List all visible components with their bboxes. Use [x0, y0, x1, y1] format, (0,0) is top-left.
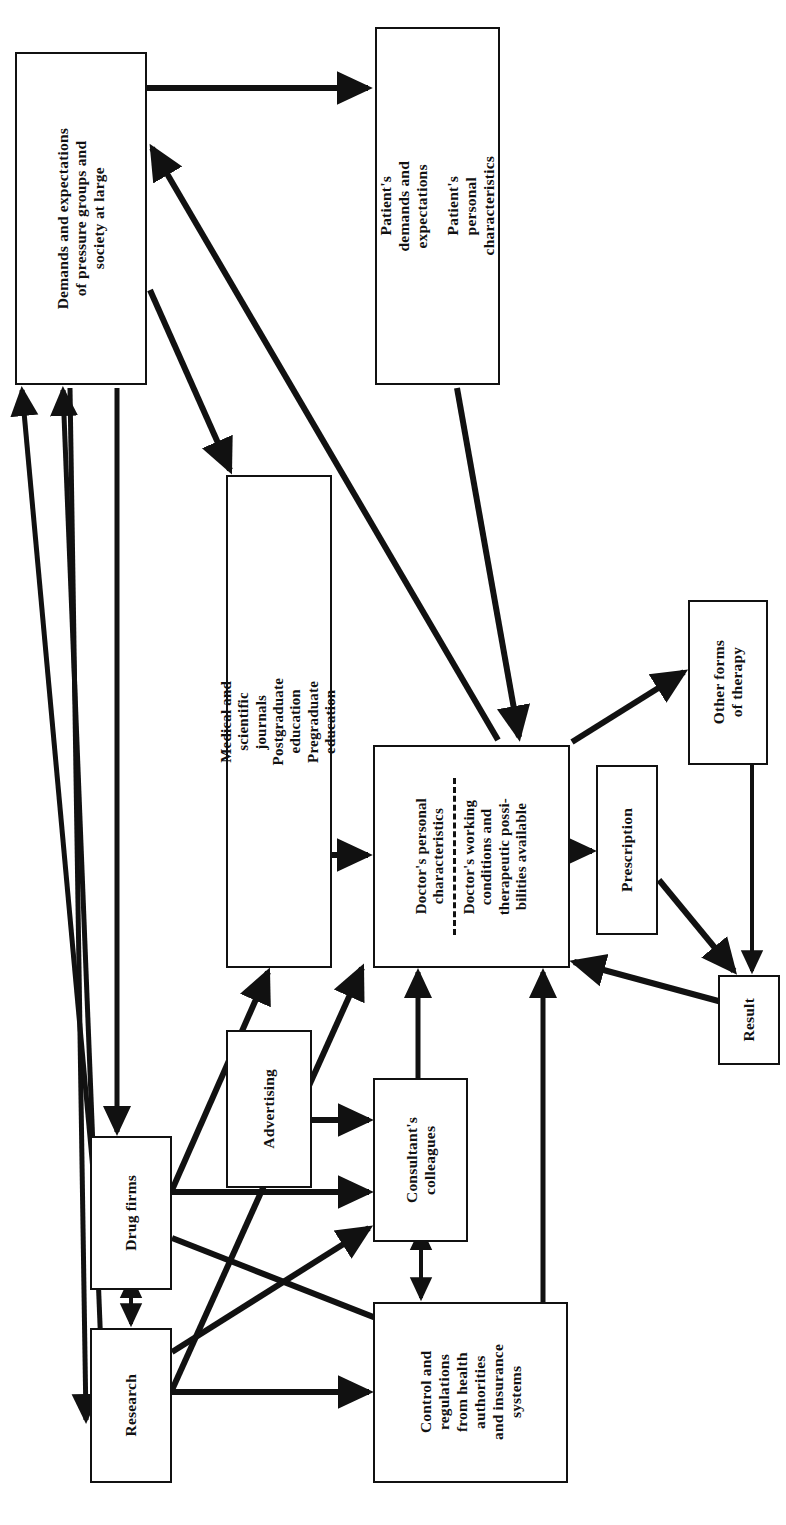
- medical-journals-label: Medical and scientific journals: [218, 681, 270, 763]
- edge-demands-to-education: [150, 290, 230, 470]
- consultants-colleagues-box[interactable]: Consultant's colleagues: [373, 1078, 468, 1242]
- doctor-box-dashed-divider: [453, 778, 456, 936]
- advertising-label: Advertising: [260, 1069, 278, 1149]
- edge-doctor-to-other-therapy: [572, 672, 684, 742]
- research-box[interactable]: Research: [90, 1328, 172, 1483]
- other-forms-of-therapy-box[interactable]: Other forms of therapy: [688, 600, 768, 765]
- doctor-personal-characteristics-label: Doctor's personal characteristics: [413, 798, 448, 914]
- patient-personal-characteristics-label: Patient's personal characteristics: [444, 156, 498, 255]
- demands-and-expectations-box[interactable]: Demands and expectations of pressure gro…: [15, 52, 147, 385]
- patient-demands-label: Patient's demands and expectations: [377, 161, 431, 252]
- diagram-canvas: Demands and expectations of pressure gro…: [0, 0, 786, 1525]
- research-label: Research: [122, 1374, 140, 1436]
- doctor-box[interactable]: Doctor's personal characteristics Doctor…: [373, 745, 570, 968]
- postgraduate-education-label: Postgraduate education: [270, 678, 305, 765]
- education-and-journals-box[interactable]: Medical and scientific journals Postgrad…: [226, 475, 332, 968]
- pregraduate-education-label: Pregraduate education: [305, 681, 340, 763]
- drug-firms-label: Drug firms: [122, 1175, 140, 1251]
- edge-drugfirms-to-demands: [22, 390, 93, 1170]
- result-label: Result: [740, 998, 758, 1041]
- edge-prescription-to-result: [659, 880, 734, 971]
- drug-firms-box[interactable]: Drug firms: [90, 1136, 172, 1290]
- result-box[interactable]: Result: [718, 975, 780, 1065]
- prescription-label: Prescription: [618, 808, 636, 892]
- edge-result-to-doctor: [574, 962, 722, 1002]
- consultants-colleagues-label: Consultant's colleagues: [403, 1117, 439, 1203]
- demands-and-expectations-label: Demands and expectations of pressure gro…: [54, 128, 108, 309]
- advertising-box[interactable]: Advertising: [226, 1030, 312, 1188]
- other-forms-of-therapy-label: Other forms of therapy: [710, 640, 746, 724]
- prescription-box[interactable]: Prescription: [596, 765, 658, 935]
- patient-box[interactable]: Patient's demands and expectations Patie…: [375, 27, 500, 385]
- control-and-regulations-label: Control and regulations from health auth…: [417, 1344, 525, 1440]
- control-and-regulations-box[interactable]: Control and regulations from health auth…: [373, 1302, 568, 1483]
- doctor-working-conditions-label: Doctor's working conditions and therapeu…: [461, 798, 531, 915]
